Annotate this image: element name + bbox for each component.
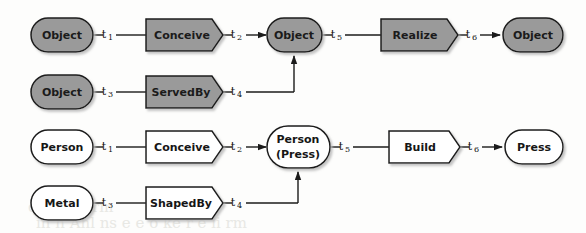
node-realize[interactable]: Realize [381,19,458,51]
transition-label-t5-row3: t 5 [339,140,350,154]
node-realize-label: Realize [393,29,438,42]
t6-sub: 6 [472,33,477,42]
t4-sub-row4: 4 [237,201,242,210]
transition-label-t3-row2: t 3 [102,85,113,99]
node-servedby-label: ServedBy [152,86,211,99]
node-conceive-2-label: Conceive [154,141,210,154]
t4-base: t [231,85,236,98]
node-object-4-label: Object [42,86,82,99]
t1-sub-row3: 1 [108,145,113,154]
node-metal[interactable]: Metal [31,186,93,220]
transition-label-t5-row1: t 5 [331,28,342,42]
transition-label-t2-row3: t 2 [231,140,242,154]
t3-base-row4: t [102,196,107,209]
t5-base: t [331,28,336,41]
t2-sub: 2 [237,33,242,42]
transition-label-t1-row1: t 1 [102,28,113,42]
node-object-1[interactable]: Object [31,18,93,52]
node-person-press[interactable]: Person (Press) [267,126,330,168]
t4-base-row4: t [231,196,236,209]
transition-label-t3-row4: t 3 [102,196,113,210]
node-object-2-label: Object [274,29,314,42]
transition-label-t2-row1: t 2 [231,28,242,42]
t6-sub-row3: 6 [474,145,479,154]
node-conceive-1-label: Conceive [154,29,210,42]
node-person-1[interactable]: Person [31,130,93,164]
t4-sub: 4 [237,90,242,99]
node-person-press-line2: (Press) [276,148,320,161]
transition-label-t6-row1: t 6 [466,28,477,42]
t5-sub: 5 [337,33,342,42]
t2-base: t [231,28,236,41]
node-conceive-1[interactable]: Conceive [146,19,223,51]
node-person-press-line1: Person [277,133,320,146]
t3-sub: 3 [108,90,113,99]
node-press[interactable]: Press [505,130,563,164]
transition-label-t6-row3: t 6 [468,140,479,154]
t1-base: t [102,28,107,41]
t3-base: t [102,85,107,98]
diagram-canvas: qo hrr r rm in h Ahl ns e e o ke r e li … [0,0,586,233]
transition-label-t4-row2: t 4 [231,85,242,99]
diagram-svg: Object t 1 Conceive t 2 Object t 5 Reali… [0,0,586,233]
t2-sub-row3: 2 [237,145,242,154]
node-object-4[interactable]: Object [31,75,93,109]
node-servedby[interactable]: ServedBy [146,76,223,108]
node-build[interactable]: Build [389,131,460,163]
node-object-1-label: Object [42,29,82,42]
t3-sub-row4: 3 [108,201,113,210]
node-shapedby[interactable]: ShapedBy [146,187,223,219]
node-object-3[interactable]: Object [503,18,563,52]
transition-label-t4-row4: t 4 [231,196,242,210]
node-press-label: Press [517,141,551,154]
t2-base-row3: t [231,140,236,153]
t1-sub: 1 [108,33,113,42]
t6-base: t [466,28,471,41]
node-shapedby-label: ShapedBy [150,197,212,210]
node-object-3-label: Object [513,29,553,42]
node-person-1-label: Person [41,141,84,154]
t5-base-row3: t [339,140,344,153]
node-build-label: Build [404,141,436,154]
transition-label-t1-row3: t 1 [102,140,113,154]
node-conceive-2[interactable]: Conceive [146,131,223,163]
t6-base-row3: t [468,140,473,153]
t5-sub-row3: 5 [345,145,350,154]
node-metal-label: Metal [45,197,80,210]
node-object-2[interactable]: Object [267,18,322,52]
t1-base-row3: t [102,140,107,153]
